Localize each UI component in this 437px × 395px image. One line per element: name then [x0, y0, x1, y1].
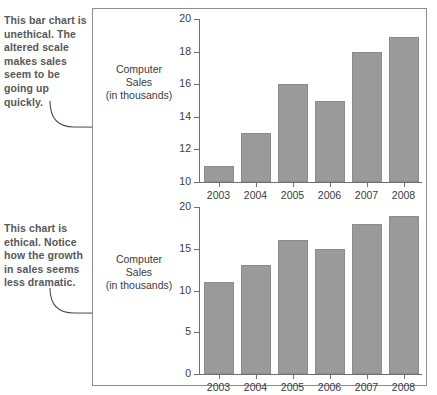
x-tick-mark	[256, 183, 257, 187]
x-tick-label: 2003	[207, 381, 230, 393]
callout-text-ethical: This chart is ethical. Notice how the gr…	[4, 222, 90, 290]
bar-slot	[200, 207, 237, 374]
y-tick-label: 20	[179, 200, 191, 212]
y-tick-label: 0	[185, 367, 191, 379]
bar	[315, 101, 345, 183]
bar	[241, 265, 271, 374]
y-tick-mark	[194, 84, 199, 85]
y-tick-label: 20	[179, 12, 191, 24]
bar-slot	[385, 207, 422, 374]
y-tick-mark	[194, 52, 199, 53]
x-tick-label: 2008	[392, 381, 415, 393]
bar-slot	[274, 207, 311, 374]
x-tick-label: 2005	[281, 381, 304, 393]
bar-chart-ethical: 05101520 200320042005200620072008	[160, 198, 430, 386]
bar	[278, 84, 308, 182]
y-tick-mark	[194, 249, 199, 250]
bar-slot	[237, 19, 274, 182]
x-axis-line	[199, 374, 422, 375]
bar-slot	[237, 207, 274, 374]
x-tick-label: 2004	[244, 381, 267, 393]
x-tick-mark	[219, 183, 220, 187]
y-tick-label: 12	[179, 142, 191, 154]
bar-chart-unethical: 101214161820 200320042005200620072008	[160, 10, 430, 195]
callout-text-unethical: This bar chart is unethical. The altered…	[4, 14, 90, 109]
x-tick-mark	[330, 183, 331, 187]
y-tick-label: 14	[179, 110, 191, 122]
bar-slot	[311, 19, 348, 182]
plot-area: 101214161820 200320042005200620072008	[199, 19, 422, 183]
x-tick-label: 2007	[355, 381, 378, 393]
y-tick-mark	[194, 374, 199, 375]
bar-slot	[348, 207, 385, 374]
x-tick-mark	[256, 375, 257, 379]
bar-slot	[274, 19, 311, 182]
bar-slot	[311, 207, 348, 374]
x-tick-mark	[219, 375, 220, 379]
bar	[278, 240, 308, 374]
y-tick-label: 5	[185, 325, 191, 337]
bar	[352, 224, 382, 374]
x-tick-label: 2006	[318, 381, 341, 393]
x-tick-mark	[293, 183, 294, 187]
y-tick-mark	[194, 207, 199, 208]
y-tick-label: 10	[179, 175, 191, 187]
bar-slot	[385, 19, 422, 182]
x-tick-mark	[367, 375, 368, 379]
y-tick-mark	[194, 182, 199, 183]
x-tick-mark	[330, 375, 331, 379]
y-tick-mark	[194, 332, 199, 333]
bar	[204, 166, 234, 182]
bar	[241, 133, 271, 182]
x-tick-mark	[404, 183, 405, 187]
bar	[315, 249, 345, 374]
y-tick-mark	[194, 117, 199, 118]
bar	[389, 216, 419, 374]
bar-series	[200, 207, 422, 374]
bar-slot	[200, 19, 237, 182]
bar	[204, 282, 234, 374]
y-tick-label: 18	[179, 45, 191, 57]
y-tick-label: 16	[179, 77, 191, 89]
ethics-in-charting-figure: This bar chart is unethical. The altered…	[0, 0, 437, 395]
y-tick: 10	[199, 182, 204, 183]
x-axis-line	[199, 182, 422, 183]
x-tick-mark	[367, 183, 368, 187]
y-tick-label: 15	[179, 242, 191, 254]
bar-series	[200, 19, 422, 182]
y-tick: 0	[199, 374, 204, 375]
y-tick-label: 10	[179, 284, 191, 296]
bar	[389, 37, 419, 182]
bar-slot	[348, 19, 385, 182]
y-tick-mark	[194, 149, 199, 150]
x-tick-mark	[404, 375, 405, 379]
y-tick-mark	[194, 291, 199, 292]
bar	[352, 52, 382, 182]
x-tick-mark	[293, 375, 294, 379]
plot-area: 05101520 200320042005200620072008	[199, 207, 422, 375]
y-tick-mark	[194, 19, 199, 20]
